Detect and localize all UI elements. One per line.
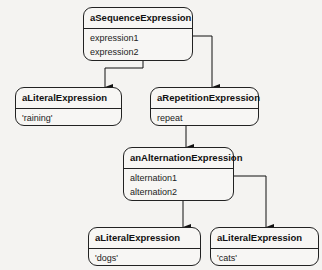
object-alternation-expression: anAlternationExpression alternation1 alt… bbox=[123, 147, 234, 201]
attribute-value: 'cats' bbox=[217, 252, 318, 266]
object-title: aLiteralExpression bbox=[89, 228, 200, 249]
object-title: aSequenceExpression bbox=[84, 8, 192, 29]
object-sequence-expression: aSequenceExpression expression1 expressi… bbox=[83, 7, 193, 61]
attribute-repeat: repeat bbox=[157, 112, 258, 126]
object-title: anAlternationExpression bbox=[124, 148, 233, 169]
object-repetition-expression: aRepetitionExpression repeat bbox=[150, 87, 259, 126]
attribute-alternation2: alternation2 bbox=[130, 186, 233, 200]
object-title: aRepetitionExpression bbox=[151, 88, 258, 109]
attribute-value: 'dogs' bbox=[95, 252, 200, 266]
object-literal-cats: aLiteralExpression 'cats' bbox=[210, 227, 319, 266]
attribute-value: 'raining' bbox=[22, 112, 121, 126]
object-title: aLiteralExpression bbox=[211, 228, 318, 249]
attribute-alternation1: alternation1 bbox=[130, 172, 233, 186]
object-title: aLiteralExpression bbox=[16, 88, 121, 109]
object-literal-dogs: aLiteralExpression 'dogs' bbox=[88, 227, 201, 266]
attribute-expression2: expression2 bbox=[90, 46, 192, 60]
attribute-expression1: expression1 bbox=[90, 32, 192, 46]
object-literal-raining: aLiteralExpression 'raining' bbox=[15, 87, 122, 126]
